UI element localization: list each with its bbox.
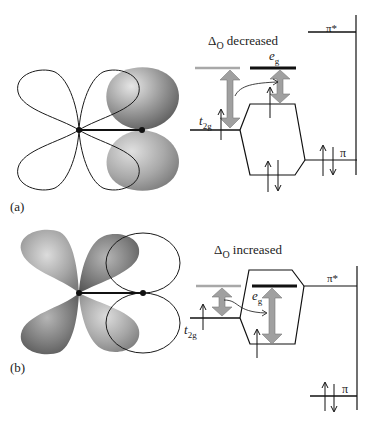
delta-large-arrow-b [262,288,282,344]
panel-b: (b) ΔO increased eg t2g π* π [10,230,357,412]
pi-label-a: π [340,146,346,160]
panel-a-label: (a) [10,199,24,214]
eg-label-b: eg [252,288,263,306]
eg-label-a: eg [269,48,280,66]
pi-label-b: π [342,382,348,396]
metal-atom-b [76,290,82,296]
t2g-label-b: t2g [184,322,197,340]
panel-a: (a) ΔO decreased eg t2g π* π [10,15,357,214]
delta-large-arrow-a [220,70,240,128]
t2g-label-a: t2g [199,113,212,131]
electron-spins-a [218,87,336,192]
delta-small-arrow-a [270,70,290,103]
metal-atom-a [76,127,82,133]
ligand-atom-a [139,127,145,133]
delta-small-arrow-b [212,288,232,316]
delta-o-increased-title: ΔO increased [214,242,282,260]
ligand-atom-b [140,290,146,296]
delta-o-decreased-title: ΔO decreased [208,33,279,51]
ligand-field-diagram: (a) ΔO decreased eg t2g π* π [0,0,379,431]
panel-b-label: (b) [10,360,25,375]
bonding-correlation-a [240,130,305,175]
pi-star-label-b: π* [327,272,338,284]
